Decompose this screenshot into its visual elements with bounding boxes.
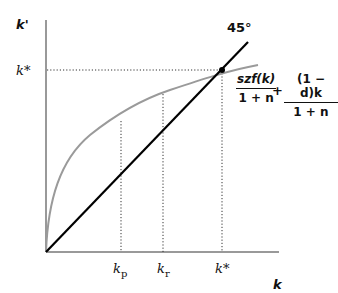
solow-diagram: k' k* 45° kp kr k* k szf(k) 1 + n + (1 −… [0,0,338,293]
45-degree-label: 45° [227,21,252,34]
y-axis-label: k' [16,18,29,31]
kstar-x-tick-label: k* [215,262,229,275]
diagram-canvas [0,0,338,293]
x-axis-label: k [273,278,282,291]
kr-x-tick-label: kr [157,262,170,279]
45-degree-line [46,42,248,252]
formula-plus: + [272,83,283,98]
steady-state-point [219,67,225,73]
formula-term2: (1 − d)k 1 + n [284,72,338,119]
formula-term1: szf(k) 1 + n [236,72,276,105]
kstar-y-tick-label: k* [16,64,30,77]
kp-x-tick-label: kp [113,262,127,279]
transition-curve [46,65,258,252]
